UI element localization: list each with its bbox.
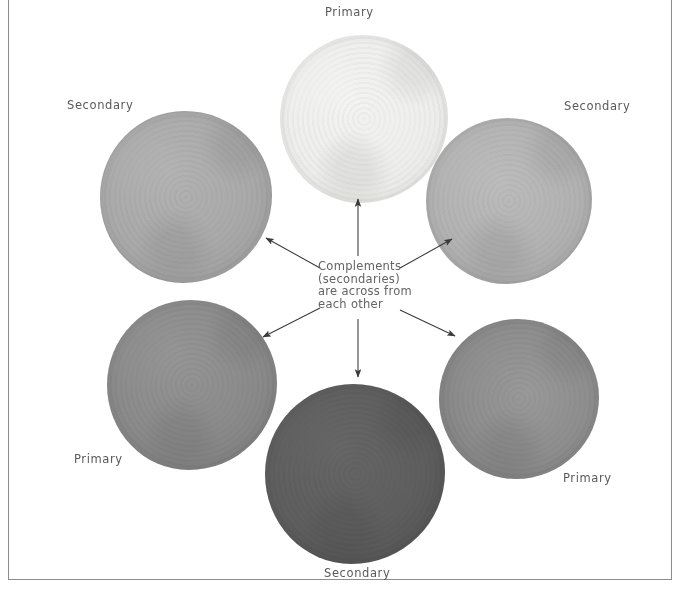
color-wheel-figure: Complements (secondaries) are across fro… <box>0 0 698 595</box>
label-upper-left: Secondary <box>67 98 133 112</box>
swatch-upper-left <box>100 111 272 283</box>
label-lower-left: Primary <box>74 452 123 466</box>
swatch-bottom-rim <box>265 384 445 564</box>
caption-line-3: are across from <box>318 285 422 298</box>
swatch-upper-right-rim <box>426 118 592 284</box>
label-lower-right: Primary <box>563 471 612 485</box>
swatch-lower-left <box>107 300 277 470</box>
center-caption: Complements (secondaries) are across fro… <box>318 260 422 310</box>
swatch-lower-left-rim <box>107 300 277 470</box>
swatch-top <box>280 35 448 203</box>
swatch-top-rim <box>280 35 448 203</box>
label-upper-right: Secondary <box>564 99 630 113</box>
caption-line-1: Complements <box>318 260 422 273</box>
swatch-bottom <box>265 384 445 564</box>
caption-line-4: each other <box>318 298 422 311</box>
swatch-upper-left-rim <box>100 111 272 283</box>
swatch-lower-right-rim <box>439 319 599 479</box>
label-bottom: Secondary <box>324 566 390 580</box>
swatch-lower-right <box>439 319 599 479</box>
swatch-upper-right <box>426 118 592 284</box>
label-top: Primary <box>325 5 374 19</box>
